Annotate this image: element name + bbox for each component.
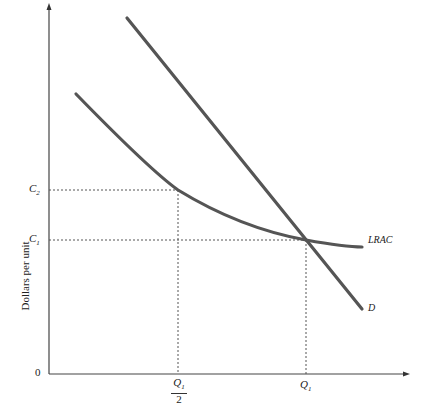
lrac-label: LRAC bbox=[368, 234, 392, 245]
demand-label: D bbox=[368, 302, 375, 313]
origin-label: 0 bbox=[35, 366, 41, 378]
y-axis-arrow-icon bbox=[47, 3, 52, 10]
x-axis-arrow-icon bbox=[403, 372, 410, 377]
demand-curve bbox=[127, 18, 362, 309]
guide-lines bbox=[49, 190, 306, 374]
diagram-svg bbox=[0, 0, 421, 411]
c1-label: C1 bbox=[29, 232, 40, 247]
lrac-curve bbox=[76, 94, 362, 247]
diagram-canvas: Dollars per unit C2 C1 0 Q1 2 Q1 LRAC D bbox=[0, 0, 421, 411]
c2-label: C2 bbox=[29, 182, 40, 197]
q1-half-label: Q1 2 bbox=[171, 377, 187, 405]
q1-label: Q1 bbox=[300, 378, 311, 393]
